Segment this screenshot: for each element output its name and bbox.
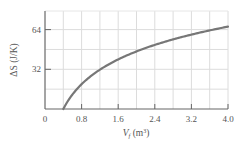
entropy-chart: 00.81.62.43.24.0 3264 Vf (m3) ΔS (J/K) bbox=[0, 0, 246, 149]
y-axis-label: ΔS (J/K) bbox=[9, 43, 20, 76]
x-tick-label: 1.6 bbox=[113, 114, 125, 124]
x-axis-label: Vf (m3) bbox=[123, 128, 150, 140]
y-tick-label: 64 bbox=[32, 25, 42, 35]
entropy-curve bbox=[63, 27, 228, 109]
x-tick-label: 4.0 bbox=[222, 114, 234, 124]
x-tick-label: 0 bbox=[43, 114, 48, 124]
x-tick-label: 0.8 bbox=[76, 114, 88, 124]
x-tick-label: 2.4 bbox=[149, 114, 161, 124]
x-axis-ticks: 00.81.62.43.24.0 bbox=[43, 104, 234, 124]
x-tick-label: 3.2 bbox=[186, 114, 197, 124]
y-tick-label: 32 bbox=[32, 64, 41, 74]
